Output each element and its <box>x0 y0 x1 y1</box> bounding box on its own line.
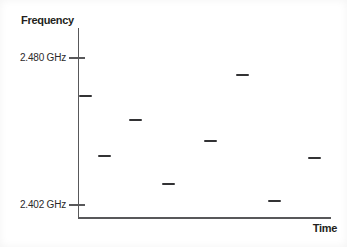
y-tick-line <box>69 204 85 205</box>
hop-dash <box>79 95 92 97</box>
x-axis-line <box>78 217 332 218</box>
hop-dash <box>162 183 175 185</box>
frequency-hopping-figure: Frequency 2.480 GHz2.402 GHz Time <box>0 0 347 247</box>
y-tick-label: 2.402 GHz <box>0 199 66 211</box>
hop-dash <box>308 157 321 159</box>
y-tick-label: 2.480 GHz <box>0 52 66 64</box>
y-axis-title: Frequency <box>21 14 74 26</box>
hop-dash <box>129 119 142 121</box>
hop-dash <box>268 200 281 202</box>
y-tick-line <box>69 57 85 58</box>
x-axis-title: Time <box>313 222 337 234</box>
hop-dash <box>204 140 217 142</box>
hop-dash <box>98 155 111 157</box>
hop-dash <box>236 74 249 76</box>
